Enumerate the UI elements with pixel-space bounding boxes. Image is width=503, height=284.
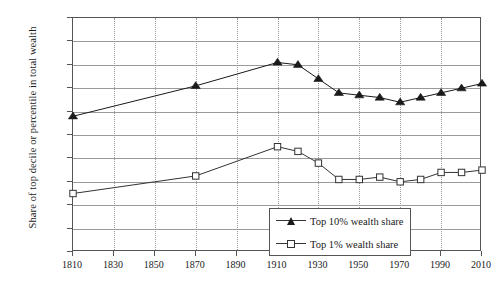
data-point-marker [273, 58, 282, 65]
y-axis-title: Share of top decile or percentile in tot… [27, 8, 38, 248]
wealth-share-line-chart: Share of top decile or percentile in tot… [0, 0, 503, 284]
data-point-marker [356, 176, 362, 182]
data-point-marker [295, 148, 301, 154]
legend-label-top-10: Top 10% wealth share [310, 216, 403, 227]
data-point-marker [193, 173, 199, 179]
chart-legend: Top 10% wealth share Top 1% wealth share [269, 208, 411, 256]
series-line-top-1 [73, 147, 482, 194]
legend-entry-top-1: Top 1% wealth share [270, 232, 410, 256]
legend-label-top-1: Top 1% wealth share [310, 239, 398, 250]
triangle-marker-icon [276, 214, 306, 228]
legend-entry-top-10: Top 10% wealth share [270, 209, 410, 233]
data-point-marker [334, 89, 343, 96]
data-point-marker [397, 179, 403, 185]
plot-area: Top 10% wealth share Top 1% wealth share [72, 17, 481, 251]
data-point-marker [377, 174, 383, 180]
data-point-marker [479, 167, 485, 173]
data-point-marker [70, 190, 76, 196]
data-point-marker [477, 79, 486, 86]
data-point-marker [315, 160, 321, 166]
data-point-marker [417, 176, 423, 182]
square-marker-icon [276, 237, 306, 251]
data-point-marker [314, 75, 323, 82]
series-line-top-10 [73, 62, 482, 116]
x-tick-label: 2010 [451, 259, 503, 270]
data-point-marker [274, 144, 280, 150]
data-point-marker [438, 169, 444, 175]
data-point-marker [458, 169, 464, 175]
data-point-marker [336, 176, 342, 182]
